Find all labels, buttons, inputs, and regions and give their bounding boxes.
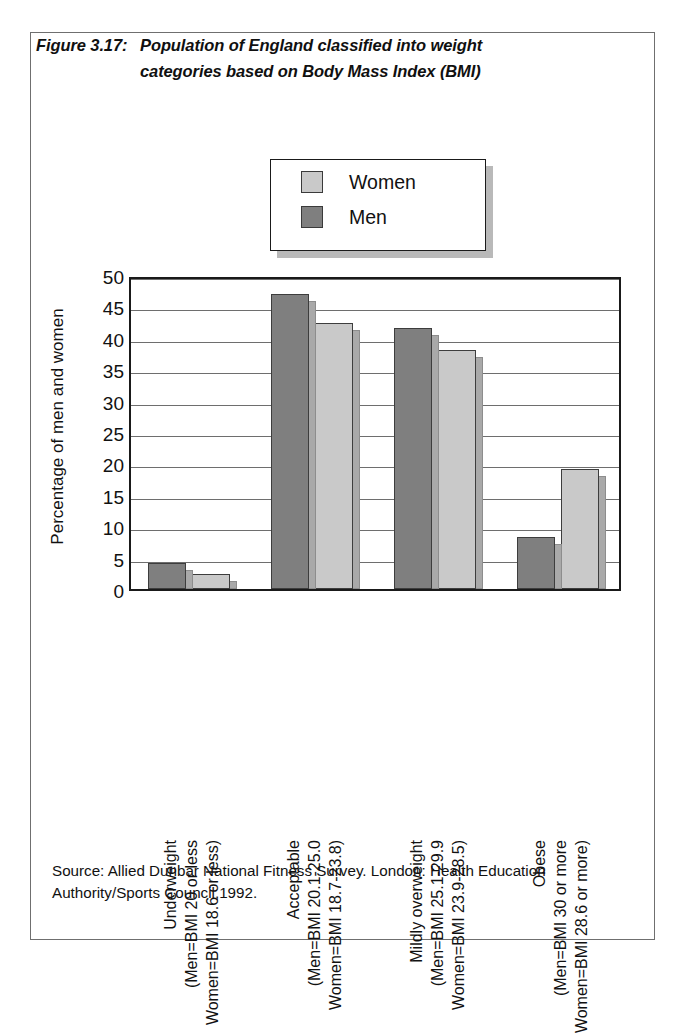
source-note: Source: Allied Dunbar National Fitness S… [52,860,612,904]
chart-plot-inner [131,279,619,589]
bar-fill [148,563,186,589]
figure-title-line2: categories based on Body Mass Index (BMI… [140,62,481,80]
source-line2: Authority/Sports Council,1992. [52,884,257,901]
page-title: Figure 3.17:Population of England classi… [36,32,576,84]
y-axis-tick-label: 10 [103,519,124,538]
x-axis-category-labels: Underweight(Men=BMI 20 or lessWomen=BMI … [129,595,621,840]
y-axis-tick-label: 15 [103,487,124,506]
bar-fill [315,323,353,589]
bar-fill [561,469,599,589]
bar-fill [192,574,230,589]
chart-legend: Women Men [270,159,486,251]
y-axis-tick-label: 35 [103,362,124,381]
bar-group [377,279,500,589]
legend-item-men: Men [301,206,387,228]
x-axis-label-stack: Acceptable(Men=BMI 20.1-25.0Women=BMI 18… [252,595,375,840]
chart-plot-area [129,277,621,591]
bar-group [500,279,623,589]
legend-item-women: Women [301,171,416,193]
x-axis-label-stack: Underweight(Men=BMI 20 or lessWomen=BMI … [129,595,252,840]
y-axis-tick-label: 20 [103,456,124,475]
x-axis-label-stack: Mildly overweight(Men=BMI 25.1-29.9Women… [375,595,498,840]
x-axis-label-stack: Obese(Men=BMI 30 or moreWomen=BMI 28.6 o… [498,595,621,840]
y-axis-tick-label: 30 [103,393,124,412]
y-axis-title: Percentage of men and women [49,277,66,577]
bar-group [131,279,254,589]
bar-women-4 [561,469,599,589]
y-axis-tick-label: 45 [103,299,124,318]
bar-fill [271,294,309,589]
x-axis-category-4: Obese(Men=BMI 30 or moreWomen=BMI 28.6 o… [498,595,621,840]
figure-number: Figure 3.17: [36,32,140,58]
y-axis-tick-label: 40 [103,330,124,349]
x-axis-category-3: Mildly overweight(Men=BMI 25.1-29.9Women… [375,595,498,840]
source-line1: Source: Allied Dunbar National Fitness S… [52,862,546,879]
bar-men-2 [271,294,309,589]
bar-men-1 [148,563,186,589]
y-axis-tick-label: 5 [113,550,124,569]
bar-women-1 [192,574,230,589]
y-axis-tick-label: 0 [113,582,124,601]
x-axis-category-2: Acceptable(Men=BMI 20.1-25.0Women=BMI 18… [252,595,375,840]
legend-label-women: Women [349,171,416,193]
bar-women-3 [438,350,476,589]
bar-men-3 [394,328,432,589]
bar-fill [438,350,476,589]
y-axis-tick-labels: 05101520253035404550 [78,277,124,591]
bar-group [254,279,377,589]
figure-title-line1: Population of England classified into we… [140,36,482,54]
bar-men-4 [517,537,555,589]
y-axis-tick-label: 25 [103,425,124,444]
bar-women-2 [315,323,353,589]
legend-swatch-men-icon [301,206,323,228]
y-axis-tick-label: 50 [103,268,124,287]
x-axis-category-1: Underweight(Men=BMI 20 or lessWomen=BMI … [129,595,252,840]
legend-label-men: Men [349,206,387,228]
bar-fill [394,328,432,589]
legend-swatch-women-icon [301,171,323,193]
bar-fill [517,537,555,589]
